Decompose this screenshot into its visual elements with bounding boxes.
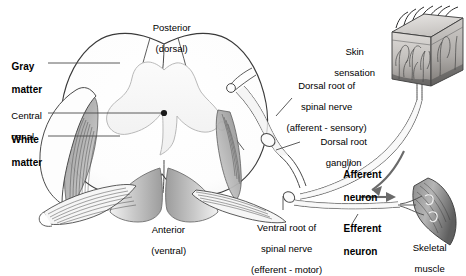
label-dorsal-root-line1: Dorsal root of (298, 80, 355, 91)
label-afferent-neuron: Afferent neuron (338, 158, 382, 203)
label-efferent-neuron: Efferent neuron (338, 212, 381, 257)
label-posterior-line1: Posterior (153, 22, 191, 33)
label-anterior-line2: (ventral) (151, 245, 186, 256)
label-ventral-root-line1: Ventral root of (257, 222, 316, 233)
label-dorsal-root: Dorsal root of spinal nerve (afferent - … (272, 70, 376, 134)
label-posterior: Posterior (dorsal) (134, 12, 204, 55)
label-dorsal-root-line2: spinal nerve (301, 101, 352, 112)
label-ventral-root: Ventral root of spinal nerve (efferent -… (231, 212, 337, 276)
left-dorsal-rootlets (40, 88, 98, 204)
label-gray-matter-line1: Gray (12, 61, 35, 72)
label-skin-sensation: Skin sensation (317, 36, 387, 79)
label-skin-sensation-line2: sensation (334, 67, 375, 78)
label-skin-sensation-line1: Skin (345, 46, 363, 57)
label-gray-matter-line2: matter (12, 84, 43, 95)
label-ventral-root-line2: spinal nerve (261, 243, 312, 254)
label-dorsal-root-ganglion-line1: Dorsal root (320, 136, 366, 147)
label-skeletal-muscle: Skeletal muscle (396, 232, 458, 275)
label-white-matter-line1: White (12, 134, 39, 145)
central-canal-dot (161, 110, 167, 116)
label-ventral-root-line3: (efferent - motor) (251, 264, 322, 275)
label-white-matter: White matter (6, 123, 42, 168)
label-white-matter-line2: matter (12, 157, 43, 168)
skin-block (392, 6, 463, 100)
label-posterior-line2: (dorsal) (156, 43, 188, 54)
label-efferent-neuron-line2: neuron (344, 246, 378, 257)
label-efferent-neuron-line1: Efferent (344, 223, 382, 234)
label-anterior-line1: Anterior (152, 224, 185, 235)
label-afferent-neuron-line1: Afferent (343, 169, 381, 180)
label-skeletal-muscle-line1: Skeletal (413, 242, 447, 253)
label-skeletal-muscle-line2: muscle (415, 263, 445, 274)
label-anterior: Anterior (ventral) (131, 214, 201, 257)
label-central-canal-line1: Central (11, 110, 42, 121)
label-afferent-neuron-line2: neuron (344, 192, 378, 203)
label-gray-matter: Gray matter (6, 50, 42, 95)
